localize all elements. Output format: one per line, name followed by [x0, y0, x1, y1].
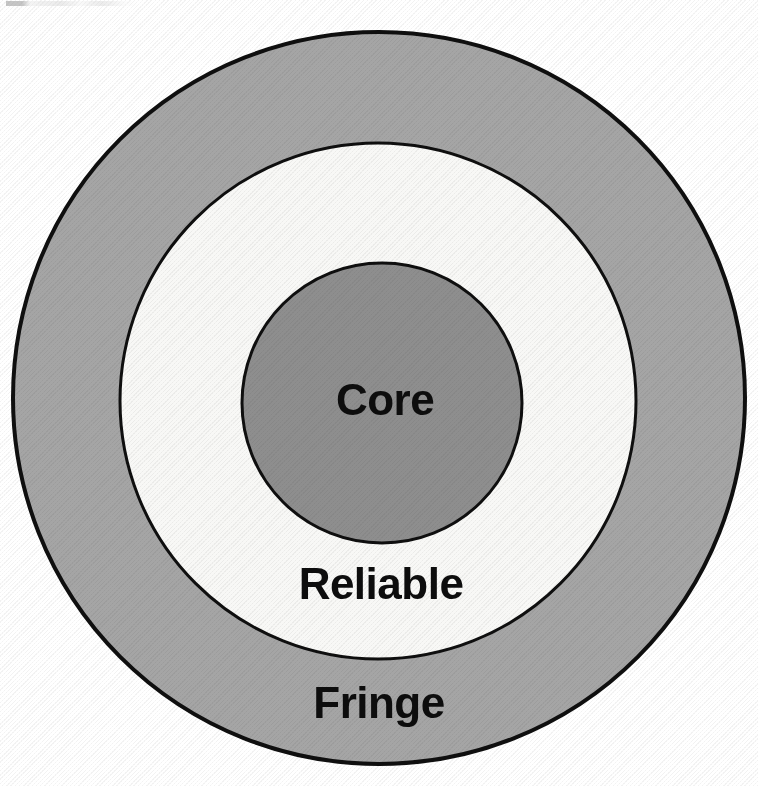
label-reliable: Reliable	[299, 559, 464, 608]
label-core: Core	[336, 375, 434, 424]
diagram-canvas: Core Reliable Fringe	[0, 0, 758, 786]
label-fringe: Fringe	[313, 678, 444, 727]
concentric-circles-diagram: Core Reliable Fringe	[0, 0, 758, 786]
